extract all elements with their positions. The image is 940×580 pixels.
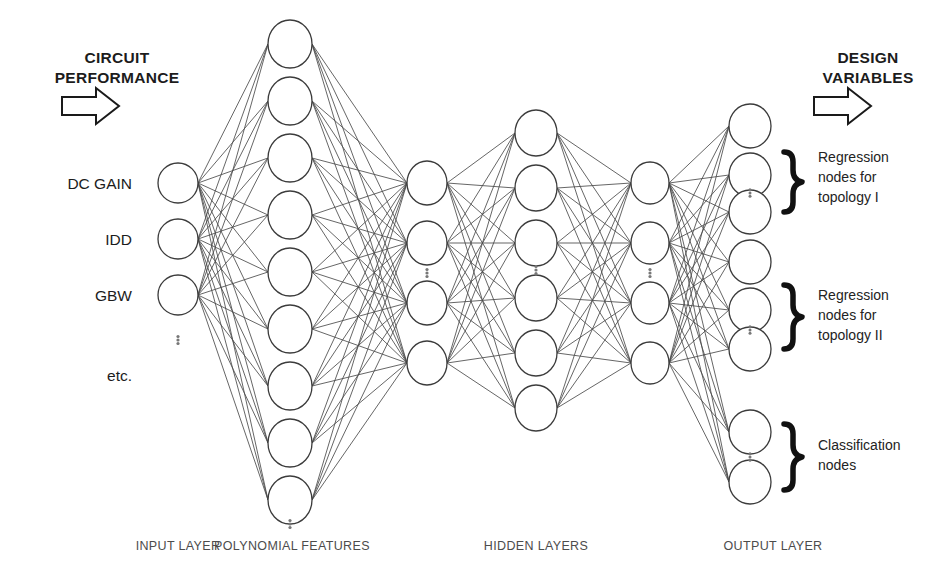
vertical-ellipsis-dot	[534, 272, 537, 275]
edge-line	[198, 295, 268, 500]
input-banner: CIRCUIT PERFORMANCE	[55, 49, 180, 124]
right-block-arrow-icon	[62, 88, 119, 124]
output-banner-line1: DESIGN	[837, 49, 898, 66]
neuron-node	[268, 77, 312, 125]
edge-line	[447, 243, 515, 298]
neuron-node	[158, 275, 198, 315]
edge-line	[669, 126, 729, 183]
vertical-ellipsis-dot	[176, 338, 179, 341]
edge-line	[198, 44, 268, 295]
edge-line	[312, 183, 407, 443]
output-group-2: Regression nodes for topology II	[784, 285, 889, 349]
edge-line	[198, 239, 268, 386]
neuron-node	[407, 281, 447, 325]
vertical-ellipsis-dot	[648, 275, 651, 278]
neuron-node	[631, 342, 669, 384]
edge-line	[447, 353, 515, 363]
vertical-ellipsis-dot	[749, 195, 752, 198]
vertical-ellipsis-dot	[425, 271, 428, 274]
neuron-node	[158, 163, 198, 203]
edge-line	[447, 183, 515, 243]
input-label-dc-gain: DC GAIN	[67, 175, 132, 192]
neuron-node	[515, 110, 557, 156]
vertical-ellipsis-dot	[749, 452, 752, 455]
right-curly-brace-icon-1	[784, 152, 802, 212]
edge-line	[312, 303, 407, 500]
neuron-node	[407, 341, 447, 385]
vertical-ellipsis-dot	[425, 268, 428, 271]
caption-output-layer: OUTPUT LAYER	[724, 539, 823, 553]
vertical-ellipsis-dot	[749, 456, 752, 459]
group-3-label-line2: nodes	[818, 457, 856, 473]
caption-hidden-layers: HIDDEN LAYERS	[484, 539, 588, 553]
edge-line	[557, 243, 631, 298]
output-banner: DESIGN VARIABLES	[814, 49, 914, 124]
right-curly-brace-icon-2	[784, 285, 802, 349]
input-label-etc: etc.	[107, 367, 132, 384]
edge-line	[669, 303, 729, 482]
neuron-node	[729, 240, 771, 284]
vertical-ellipsis-dot	[648, 271, 651, 274]
edge-line	[669, 175, 729, 183]
layer-captions: INPUT LAYER POLYNOMIAL FEATURES HIDDEN L…	[136, 539, 823, 553]
edge-line	[312, 272, 407, 303]
edge-line	[447, 188, 515, 303]
input-feature-labels: DC GAIN IDD GBW etc.	[67, 175, 132, 384]
input-banner-line1: CIRCUIT	[85, 49, 150, 66]
right-curly-brace-icon-3	[784, 424, 802, 490]
group-1-label-line2: nodes for	[818, 169, 877, 185]
neuron-node	[515, 275, 557, 321]
edge-line	[669, 175, 729, 363]
edge-line	[198, 295, 268, 329]
vertical-ellipsis-dot	[749, 325, 752, 328]
edge-line	[447, 133, 515, 243]
neuron-node	[158, 219, 198, 259]
vertical-ellipsis-dot	[288, 526, 291, 529]
edge-line	[557, 183, 631, 243]
vertical-ellipsis-dot	[288, 522, 291, 525]
edge-line	[447, 363, 515, 408]
edge-line	[312, 243, 407, 500]
edge-line	[312, 215, 407, 243]
edge-line	[669, 310, 729, 363]
group-2-label-line2: nodes for	[818, 307, 877, 323]
edge-line	[669, 212, 729, 363]
edge-line	[447, 243, 515, 303]
caption-input-layer: INPUT LAYER	[136, 539, 221, 553]
neuron-node	[729, 460, 771, 504]
vertical-ellipsis-dot	[534, 268, 537, 271]
edge-line	[557, 183, 631, 298]
edge-line	[447, 183, 515, 298]
edge-line	[669, 243, 729, 482]
edge-line	[198, 295, 268, 386]
edge-line	[557, 298, 631, 363]
group-3-label-line1: Classification	[818, 437, 900, 453]
neuron-node	[268, 362, 312, 410]
neuron-node	[268, 134, 312, 182]
vertical-ellipsis-dot	[176, 342, 179, 345]
edge-line	[669, 126, 729, 363]
edge-line	[557, 133, 631, 243]
edge-line	[198, 295, 268, 443]
input-label-idd: IDD	[105, 231, 132, 248]
vertical-ellipsis-dot	[176, 335, 179, 338]
edge-line	[447, 298, 515, 363]
edge-line	[557, 188, 631, 303]
group-1-label-line1: Regression	[818, 149, 889, 165]
group-2-label-line3: topology II	[818, 327, 883, 343]
input-label-gbw: GBW	[95, 287, 132, 304]
neuron-node	[268, 419, 312, 467]
right-block-arrow-icon-2	[814, 88, 871, 124]
neuron-node	[268, 248, 312, 296]
neuron-node	[268, 476, 312, 524]
neuron-node	[268, 305, 312, 353]
edge-line	[557, 243, 631, 303]
edge-line	[447, 183, 515, 408]
vertical-ellipsis-dot	[749, 332, 752, 335]
vertical-ellipsis-dot	[425, 275, 428, 278]
edge-line	[669, 363, 729, 482]
edge-line	[557, 363, 631, 408]
neuron-node	[407, 161, 447, 205]
output-banner-line2: VARIABLES	[822, 69, 913, 86]
neuron-node	[631, 282, 669, 324]
